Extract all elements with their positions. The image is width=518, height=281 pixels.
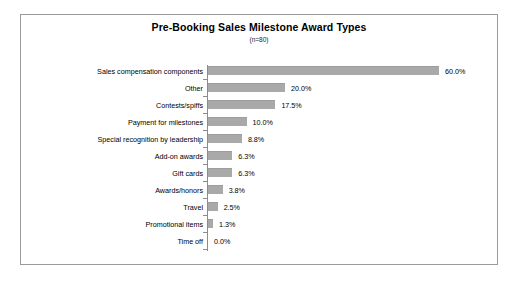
- category-label: Promotional items: [27, 219, 207, 230]
- bar-row: Payment for milestones10.0%: [21, 114, 499, 131]
- category-label: Sales compensation components: [27, 66, 207, 77]
- bar: [208, 219, 213, 228]
- bar-row: Special recognition by leadership8.8%: [21, 131, 499, 148]
- bar: [208, 202, 218, 211]
- value-label: 10.0%: [253, 117, 273, 128]
- bar-row: Awards/honors3.8%: [21, 182, 499, 199]
- value-label: 0.0%: [214, 236, 230, 247]
- bar: [208, 66, 439, 75]
- value-label: 6.3%: [238, 168, 254, 179]
- bar: [208, 83, 285, 92]
- value-label: 60.0%: [445, 66, 465, 77]
- axis-tick: [203, 249, 207, 250]
- bar-rows-container: Sales compensation components60.0%Other2…: [21, 63, 499, 250]
- category-label: Travel: [27, 202, 207, 213]
- value-label: 2.5%: [224, 202, 240, 213]
- title-block: Pre-Booking Sales Milestone Award Types …: [21, 21, 497, 45]
- bar: [208, 117, 247, 126]
- category-label: Gift cards: [27, 168, 207, 179]
- bar: [208, 151, 232, 160]
- category-label: Contests/spiffs: [27, 100, 207, 111]
- chart-frame: Pre-Booking Sales Milestone Award Types …: [20, 14, 498, 265]
- chart-subtitle: (n=80): [21, 35, 497, 45]
- bar: [208, 134, 242, 143]
- value-label: 1.3%: [219, 219, 235, 230]
- chart-title: Pre-Booking Sales Milestone Award Types: [21, 21, 497, 34]
- bar-row: Time off0.0%: [21, 233, 499, 250]
- value-label: 20.0%: [291, 83, 311, 94]
- category-label: Add-on awards: [27, 151, 207, 162]
- bar-row: Add-on awards6.3%: [21, 148, 499, 165]
- bar-row: Travel2.5%: [21, 199, 499, 216]
- value-label: 8.8%: [248, 134, 264, 145]
- bar: [208, 168, 232, 177]
- category-label: Other: [27, 83, 207, 94]
- value-label: 6.3%: [238, 151, 254, 162]
- bar: [208, 100, 275, 109]
- bar-row: Other20.0%: [21, 80, 499, 97]
- bar: [208, 185, 223, 194]
- plot-area: Sales compensation components60.0%Other2…: [21, 63, 499, 259]
- category-label: Time off: [27, 236, 207, 247]
- category-label: Awards/honors: [27, 185, 207, 196]
- value-label: 3.8%: [229, 185, 245, 196]
- bar-row: Contests/spiffs17.5%: [21, 97, 499, 114]
- value-label: 17.5%: [281, 100, 301, 111]
- category-label: Payment for milestones: [27, 117, 207, 128]
- category-label: Special recognition by leadership: [27, 134, 207, 145]
- bar-row: Promotional items1.3%: [21, 216, 499, 233]
- bar-row: Gift cards6.3%: [21, 165, 499, 182]
- bar-row: Sales compensation components60.0%: [21, 63, 499, 80]
